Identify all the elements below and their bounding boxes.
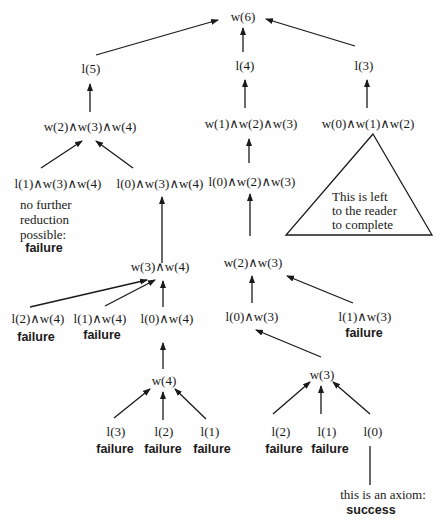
failure-label: failure: [96, 442, 134, 456]
node-l1: l(1): [201, 425, 220, 439]
node-l0w4: l(0)∧w(4): [141, 312, 194, 326]
node-l0w34: l(0)∧w(3)∧w(4): [117, 177, 204, 191]
failure-label: failure: [83, 328, 121, 342]
node-w4: w(4): [152, 374, 177, 388]
triangle-note: This is left to the reader to complete: [332, 190, 397, 232]
node-w23: w(2)∧w(3): [224, 256, 283, 270]
node-l2: l(2): [155, 425, 174, 439]
failure-label: failure: [17, 330, 55, 344]
failure-label: failure: [311, 442, 349, 456]
failure-label: failure: [25, 241, 63, 255]
node-w3: w(3): [310, 368, 335, 382]
no-reduction-note: no further reduction possible:: [20, 197, 72, 242]
failure-label: failure: [193, 442, 231, 456]
node-l0w23: l(0)∧w(2)∧w(3): [209, 175, 296, 189]
node-l3: l(3): [107, 425, 126, 439]
node-l0w3: l(0)∧w(3): [226, 310, 279, 324]
node-w34: w(3)∧w(4): [131, 260, 190, 274]
node-l1w4: l(1)∧w(4): [74, 312, 127, 326]
node-l2w4: l(2)∧w(4): [12, 312, 65, 326]
node-l5: l(5): [82, 62, 101, 76]
node-l1w34: l(1)∧w(3)∧w(4): [15, 177, 102, 191]
node-w234: w(2)∧w(3)∧w(4): [44, 120, 137, 134]
node-l4: l(4): [236, 59, 255, 73]
node-l1: l(1): [318, 425, 337, 439]
node-w123: w(1)∧w(2)∧w(3): [205, 117, 298, 131]
failure-label: failure: [345, 326, 383, 340]
failure-label: failure: [265, 442, 303, 456]
node-l1w3: l(1)∧w(3): [339, 310, 392, 324]
proof-tree-diagram: w(6) l(5) l(4) l(3) w(2)∧w(3)∧w(4) w(1)∧…: [0, 0, 446, 521]
success-label: success: [346, 503, 395, 517]
node-w6: w(6): [231, 10, 256, 24]
failure-label: failure: [144, 442, 182, 456]
node-l2: l(2): [272, 425, 291, 439]
node-w012: w(0)∧w(1)∧w(2): [322, 117, 415, 131]
axiom-note: this is an axiom:: [340, 488, 426, 502]
node-l3: l(3): [355, 59, 374, 73]
node-l0: l(0): [364, 425, 383, 439]
